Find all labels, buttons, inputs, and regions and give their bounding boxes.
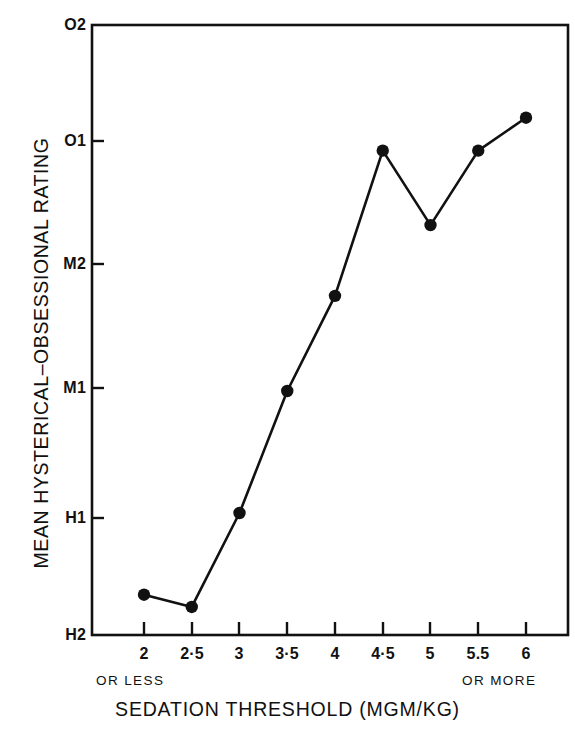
x-axis-range-notes: OR LESS OR MORE [0,673,575,693]
data-point [472,144,484,156]
data-point [186,601,198,613]
x-axis-title: SEDATION THRESHOLD (MGM/KG) [0,698,575,721]
data-point [233,507,245,519]
data-point [329,290,341,302]
data-point [520,112,532,124]
data-point [377,144,389,156]
x-axis-note-or-less: OR LESS [96,673,164,688]
data-series-line [144,118,526,607]
data-point [281,385,293,397]
data-point [138,589,150,601]
chart-figure: MEAN HYSTERICAL–OBSESSIONAL RATING O2 O1… [0,0,575,730]
x-axis-tick-labels: 2 2·5 3 3·5 4 4·5 5 5.5 6 [0,645,575,669]
x-axis-ticks [144,622,526,635]
plot-frame-box [92,25,568,635]
axis-frame [92,25,568,635]
x-tick-label-6: 6 [496,645,556,663]
data-point [424,219,436,231]
y-axis-ticks [92,141,104,518]
plot-area [0,0,575,730]
data-series-markers [138,112,532,614]
x-axis-note-or-more: OR MORE [462,673,536,688]
